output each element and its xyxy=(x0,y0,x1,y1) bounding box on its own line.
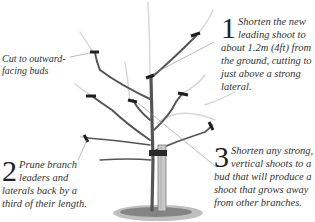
pruned-growth xyxy=(75,2,235,123)
cut-marks xyxy=(84,33,213,142)
leader-lines xyxy=(70,42,215,166)
cut-note: Cut to outward- facing buds xyxy=(2,53,74,77)
cut-note-line-1: Cut to outward- xyxy=(2,53,74,65)
step-2-number: 2 xyxy=(2,159,17,183)
step-1-number: 1 xyxy=(221,16,236,40)
step-2-caption: 2 Prune branch leaders and laterals back… xyxy=(2,158,88,210)
step-3-caption: 3 Shorten any strong, vertical shoots to… xyxy=(214,144,315,209)
step-3-number: 3 xyxy=(214,145,229,169)
cut-note-line-2: facing buds xyxy=(2,65,74,77)
step-1-caption: 1 Shorten the new leading shoot to about… xyxy=(221,15,315,93)
